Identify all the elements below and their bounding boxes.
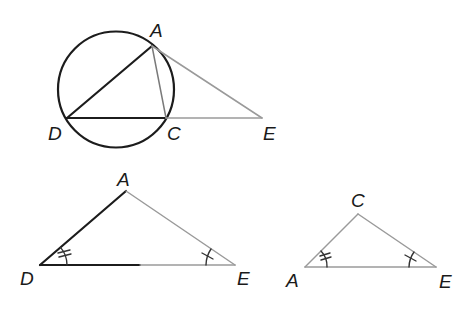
label-E: E: [237, 268, 250, 289]
figure-triangle-ACE: C A E: [285, 190, 452, 292]
label-A: A: [149, 20, 163, 41]
label-D: D: [48, 123, 62, 144]
segment-AE: [126, 191, 235, 265]
figure-triangle-DAE: A D E: [20, 169, 250, 289]
label-E: E: [263, 123, 276, 144]
segment-AE: [152, 46, 262, 118]
figure-circle-triangle: A D C E: [48, 20, 276, 148]
segment-AD: [67, 46, 152, 118]
label-C: C: [351, 190, 365, 211]
label-D: D: [20, 268, 34, 289]
segment-DA: [40, 191, 126, 265]
label-C: C: [167, 123, 181, 144]
segment-CE: [358, 214, 436, 267]
geometry-diagram: A D C E A D E C A: [0, 0, 471, 310]
label-E: E: [439, 271, 452, 292]
label-A: A: [116, 169, 130, 190]
segment-AC: [305, 214, 358, 267]
label-A: A: [285, 270, 299, 291]
